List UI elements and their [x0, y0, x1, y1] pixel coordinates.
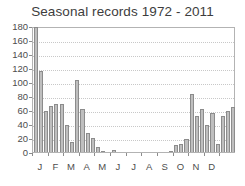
bar — [65, 125, 69, 152]
x-axis-tick-mark — [219, 153, 220, 156]
x-axis-tick-mark — [157, 153, 158, 156]
bar — [231, 107, 235, 153]
x-axis-tick-mark — [94, 153, 95, 156]
x-axis-tick-label: M — [67, 162, 75, 172]
x-axis-tick-mark — [204, 153, 205, 156]
x-axis-tick-mark — [48, 153, 49, 156]
x-axis-tick-mark — [141, 153, 142, 156]
x-axis-tick-mark — [63, 153, 64, 156]
y-axis-tick-label: 140 — [12, 50, 28, 60]
bar — [210, 113, 214, 152]
x-axis-tick-label: D — [208, 162, 215, 172]
chart-title: Seasonal records 1972 - 2011 — [0, 4, 245, 19]
bar — [101, 151, 105, 152]
bar — [169, 151, 173, 152]
bar — [75, 80, 79, 152]
bar — [86, 133, 90, 152]
bar — [112, 150, 116, 152]
x-axis-tick-mark — [79, 153, 80, 156]
bar — [39, 71, 43, 152]
x-axis-tick-mark — [110, 153, 111, 156]
y-axis-tick-label: 20 — [17, 134, 28, 144]
bar — [216, 144, 220, 152]
y-axis-tick-label: 40 — [17, 120, 28, 130]
bar — [195, 116, 199, 152]
bar-chart: Seasonal records 1972 - 2011 02040608010… — [0, 0, 245, 186]
x-axis: JFMAMJJASOND — [32, 153, 235, 183]
bar — [179, 144, 183, 152]
bar — [60, 104, 64, 152]
plot-area — [32, 27, 235, 153]
bar — [190, 94, 194, 152]
y-axis-tick-label: 160 — [12, 36, 28, 46]
y-axis-tick-label: 180 — [12, 22, 28, 32]
bar — [34, 27, 38, 152]
bar — [44, 111, 48, 152]
y-axis-tick-label: 80 — [17, 92, 28, 102]
bar — [184, 139, 188, 152]
x-axis-tick-label: A — [146, 162, 152, 172]
bar — [80, 109, 84, 152]
x-axis-tick-label: J — [131, 162, 136, 172]
x-axis-tick-label: O — [177, 162, 184, 172]
x-axis-tick-label: S — [162, 162, 168, 172]
bars-layer — [33, 28, 234, 152]
bar — [205, 125, 209, 152]
x-axis-tick-label: F — [53, 162, 59, 172]
y-axis-tick-label: 100 — [12, 78, 28, 88]
bar — [226, 111, 230, 152]
y-axis-tick-label: 60 — [17, 106, 28, 116]
x-axis-tick-mark — [32, 153, 33, 156]
x-axis-tick-mark — [188, 153, 189, 156]
bar — [174, 145, 178, 152]
y-axis: 020406080100120140160180 — [0, 27, 32, 153]
bar — [221, 116, 225, 152]
bar — [54, 104, 58, 152]
x-axis-tick-mark — [126, 153, 127, 156]
bar — [200, 109, 204, 152]
bar — [96, 147, 100, 152]
bar — [91, 138, 95, 152]
x-axis-tick-mark — [173, 153, 174, 156]
x-axis-tick-label: J — [37, 162, 42, 172]
y-axis-tick-label: 0 — [23, 148, 28, 158]
y-axis-tick-label: 120 — [12, 64, 28, 74]
x-axis-tick-label: N — [193, 162, 200, 172]
x-axis-tick-label: J — [116, 162, 121, 172]
x-axis-tick-label: A — [83, 162, 89, 172]
bar — [70, 142, 74, 153]
bar — [49, 106, 53, 152]
x-axis-tick-label: M — [98, 162, 106, 172]
